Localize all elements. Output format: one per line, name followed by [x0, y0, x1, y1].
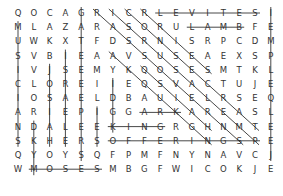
grid-cell[interactable]: M	[279, 120, 283, 134]
grid-cell[interactable]: R	[89, 20, 105, 34]
grid-cell[interactable]: F	[247, 20, 263, 34]
grid-cell[interactable]: A	[136, 91, 152, 105]
grid-cell[interactable]: A	[10, 105, 26, 119]
grid-cell[interactable]: B	[42, 49, 58, 63]
grid-cell[interactable]: O	[26, 6, 42, 20]
grid-cell[interactable]: G	[105, 105, 121, 119]
grid-cell[interactable]: O	[26, 91, 42, 105]
grid-cell[interactable]: S	[57, 162, 73, 176]
grid-cell[interactable]: E	[168, 6, 184, 20]
grid-cell[interactable]: M	[263, 34, 279, 48]
grid-cell[interactable]: O	[42, 148, 58, 162]
grid-cell[interactable]: S	[168, 63, 184, 77]
grid-cell[interactable]: J	[279, 162, 283, 176]
grid-cell[interactable]: E	[215, 49, 231, 63]
grid-cell[interactable]: I	[200, 6, 216, 20]
grid-cell[interactable]: T	[215, 77, 231, 91]
grid-cell[interactable]: I	[57, 49, 73, 63]
grid-cell[interactable]: E	[263, 162, 279, 176]
grid-cell[interactable]: F	[89, 34, 105, 48]
grid-cell[interactable]: U	[10, 34, 26, 48]
grid-cell[interactable]: S	[231, 134, 247, 148]
grid-cell[interactable]: E	[73, 91, 89, 105]
grid-cell[interactable]: K	[121, 63, 137, 77]
grid-cell[interactable]: V	[26, 63, 42, 77]
grid-cell[interactable]: M	[279, 49, 283, 63]
grid-cell[interactable]: E	[73, 63, 89, 77]
grid-cell[interactable]: O	[105, 134, 121, 148]
grid-cell[interactable]: N	[136, 120, 152, 134]
grid-cell[interactable]: W	[168, 162, 184, 176]
grid-cell[interactable]: O	[279, 77, 283, 91]
grid-cell[interactable]: K	[26, 134, 42, 148]
grid-cell[interactable]: L	[279, 91, 283, 105]
grid-cell[interactable]: R	[136, 6, 152, 20]
grid-cell[interactable]: R	[136, 34, 152, 48]
grid-cell[interactable]: F	[152, 148, 168, 162]
grid-cell[interactable]: Y	[26, 148, 42, 162]
grid-cell[interactable]: R	[200, 105, 216, 119]
grid-cell[interactable]: C	[10, 77, 26, 91]
grid-cell[interactable]: C	[200, 77, 216, 91]
grid-cell[interactable]: S	[247, 49, 263, 63]
grid-cell[interactable]: E	[263, 120, 279, 134]
grid-cell[interactable]: R	[89, 6, 105, 20]
grid-cell[interactable]: O	[152, 63, 168, 77]
grid-cell[interactable]: Q	[10, 6, 26, 20]
grid-cell[interactable]: V	[121, 49, 137, 63]
grid-cell[interactable]: S	[73, 148, 89, 162]
grid-cell[interactable]: M	[10, 20, 26, 34]
grid-cell[interactable]: J	[42, 63, 58, 77]
grid-cell[interactable]: Y	[57, 148, 73, 162]
grid-cell[interactable]: O	[136, 20, 152, 34]
grid-cell[interactable]: A	[42, 120, 58, 134]
grid-cell[interactable]: S	[42, 91, 58, 105]
grid-cell[interactable]: P	[215, 34, 231, 48]
grid-cell[interactable]: O	[42, 77, 58, 91]
grid-cell[interactable]: S	[121, 34, 137, 48]
grid-cell[interactable]: H	[42, 134, 58, 148]
grid-cell[interactable]: I	[105, 6, 121, 20]
grid-cell[interactable]: E	[215, 105, 231, 119]
grid-cell[interactable]: D	[26, 120, 42, 134]
grid-cell[interactable]: N	[152, 34, 168, 48]
grid-cell[interactable]: Z	[57, 20, 73, 34]
grid-cell[interactable]: B	[231, 20, 247, 34]
grid-cell[interactable]: A	[136, 105, 152, 119]
grid-cell[interactable]: R	[168, 120, 184, 134]
grid-cell[interactable]: S	[152, 77, 168, 91]
grid-cell[interactable]: R	[73, 134, 89, 148]
grid-cell[interactable]: G	[215, 134, 231, 148]
grid-cell[interactable]: S	[89, 134, 105, 148]
grid-cell[interactable]: N	[279, 20, 283, 34]
grid-cell[interactable]: R	[200, 34, 216, 48]
grid-cell[interactable]: A	[200, 20, 216, 34]
grid-cell[interactable]: E	[73, 120, 89, 134]
grid-cell[interactable]: L	[184, 20, 200, 34]
grid-cell[interactable]: S	[231, 91, 247, 105]
grid-cell[interactable]: J	[247, 77, 263, 91]
grid-cell[interactable]: F	[152, 162, 168, 176]
grid-cell[interactable]: I	[168, 91, 184, 105]
grid-cell[interactable]: L	[152, 6, 168, 20]
grid-cell[interactable]: A	[89, 49, 105, 63]
grid-cell[interactable]: N	[10, 120, 26, 134]
grid-cell[interactable]: Q	[263, 91, 279, 105]
grid-cell[interactable]: A	[200, 49, 216, 63]
grid-cell[interactable]: I	[184, 162, 200, 176]
grid-cell[interactable]: M	[215, 63, 231, 77]
grid-cell[interactable]: O	[279, 6, 283, 20]
grid-cell[interactable]: A	[57, 91, 73, 105]
grid-cell[interactable]: E	[263, 134, 279, 148]
grid-cell[interactable]: I	[10, 63, 26, 77]
grid-cell[interactable]: K	[231, 162, 247, 176]
grid-cell[interactable]: I	[10, 91, 26, 105]
grid-cell[interactable]: A	[105, 20, 121, 34]
grid-cell[interactable]: I	[263, 6, 279, 20]
grid-cell[interactable]: K	[42, 34, 58, 48]
grid-cell[interactable]: X	[57, 34, 73, 48]
grid-cell[interactable]: E	[184, 91, 200, 105]
grid-cell[interactable]: M	[231, 120, 247, 134]
grid-cell[interactable]: R	[215, 91, 231, 105]
grid-cell[interactable]: F	[136, 134, 152, 148]
